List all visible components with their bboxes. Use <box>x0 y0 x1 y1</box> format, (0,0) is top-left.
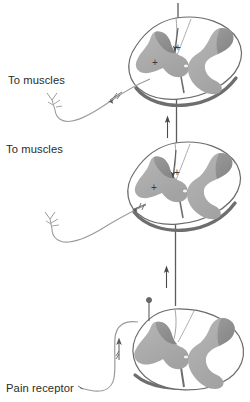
synapse-plus-middle-right: + <box>174 167 180 178</box>
synapse-plus-middle-left: + <box>151 182 157 193</box>
synapse-plus-upper-right: + <box>175 42 181 53</box>
central-canal-upper <box>183 64 188 68</box>
synapse-plus-upper-left: + <box>152 57 158 68</box>
ganglion-cell-body <box>146 297 151 302</box>
central-canal-middle <box>182 189 187 193</box>
label-to-muscles-upper: To muscles <box>8 74 65 86</box>
label-to-muscles-middle: To muscles <box>6 143 63 155</box>
spinal-cord-pathway-svg: + + To muscles <box>0 0 250 402</box>
label-pain-receptor: Pain receptor <box>6 382 74 394</box>
central-canal-lower <box>183 355 188 359</box>
diagram-canvas: + + To muscles <box>0 0 250 402</box>
